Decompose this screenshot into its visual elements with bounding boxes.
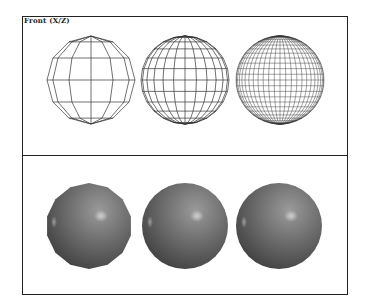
shaded-panel: [23, 156, 347, 294]
shaded-sphere-low-resolution: [47, 183, 131, 269]
wireframe-sphere-high-resolution: [236, 36, 324, 124]
wireframe-sphere-medium-resolution: [141, 36, 229, 124]
shaded-spheres: [23, 156, 347, 294]
viewport-frame: Front (X/Z): [22, 16, 348, 295]
shaded-sphere-high-resolution: [236, 183, 322, 269]
wireframe-spheres: [23, 17, 347, 155]
wireframe-sphere-low-resolution: [47, 36, 135, 124]
shaded-sphere-medium-resolution: [142, 183, 228, 269]
wireframe-panel: Front (X/Z): [23, 17, 347, 156]
